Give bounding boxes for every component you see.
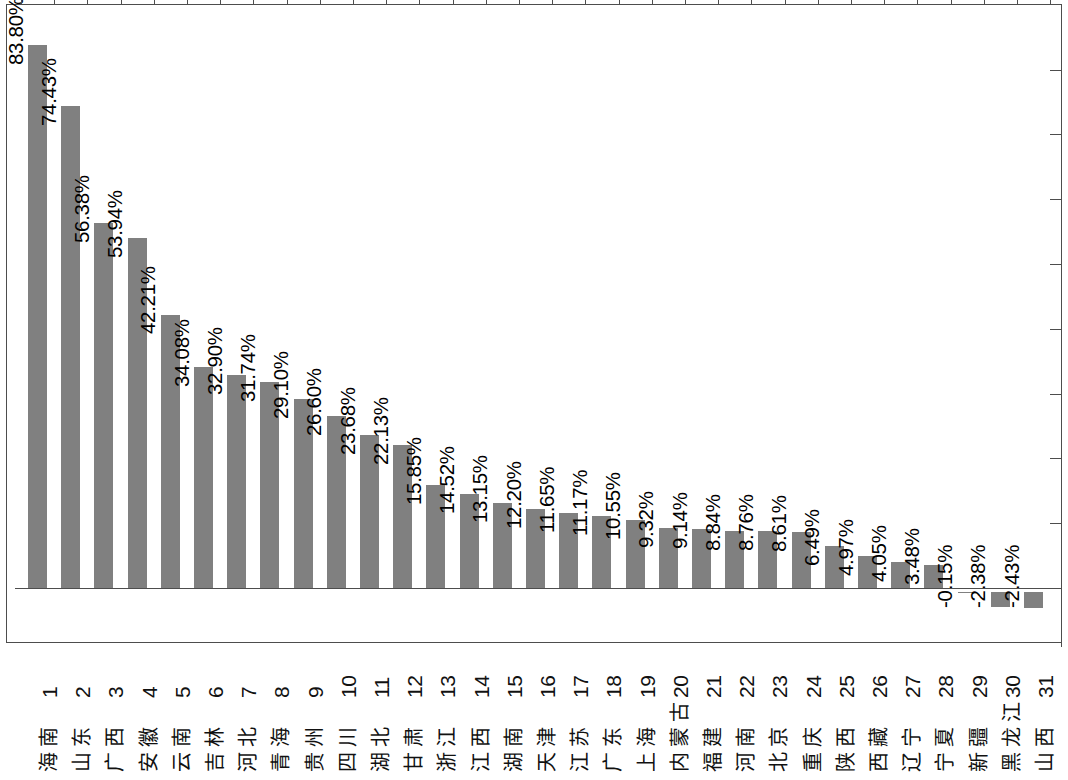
category-label-column: 13浙江 [412,652,445,776]
y-axis-tick [1050,264,1061,265]
category-label-column: 31山西 [1010,652,1043,776]
bar-value-label: 8.84% [701,494,725,551]
y-axis-tick [1050,523,1061,524]
y-axis-tick [1050,134,1061,135]
category-label-column: 5云南 [147,652,180,776]
bar-value-label: 32.90% [203,327,227,395]
bar-value-label: 4.97% [834,519,858,576]
x-axis-tick [287,0,288,5]
bar-value-label: 53.94% [103,191,127,259]
category-label-column: 16天津 [512,652,545,776]
category-label-column: 21福建 [678,652,711,776]
y-axis-tick [1050,329,1061,330]
y-axis-tick [1050,70,1061,71]
bar-slot: 29.10% [287,9,320,588]
value-axis-line [1061,10,1062,647]
bar-value-label: -2.38% [966,545,990,608]
x-axis-tick [552,0,553,5]
bar[interactable] [94,223,113,588]
x-axis-tick [1050,0,1051,5]
category-label-column: 2山东 [47,652,80,776]
bar-value-label: 15.85% [402,438,426,506]
x-axis-tick [619,0,620,5]
x-axis-tick [718,0,719,5]
category-label-column: 15湖南 [479,652,512,776]
x-axis-tick [652,0,653,5]
bar-slot: 4.05% [884,9,917,588]
x-axis-tick [220,0,221,5]
x-axis-tick [585,0,586,5]
bar-slot: -2.38% [984,9,1017,588]
category-label-column: 11湖北 [346,652,379,776]
bar-value-label: 12.20% [502,461,526,529]
category-label-column: 27辽宁 [877,652,910,776]
bar-value-label: 31.74% [236,335,260,403]
category-label-column: 8青海 [246,652,279,776]
x-axis-tick [851,0,852,5]
bar-slot: 4.97% [851,9,884,588]
bar[interactable] [1024,592,1043,608]
category-label-column: 18广东 [578,652,611,776]
category-label-column: 22河南 [711,652,744,776]
category-label-column: 7河北 [213,652,246,776]
x-axis-tick [54,0,55,5]
category-label-column: 24重庆 [778,652,811,776]
category-label-column: 17江苏 [545,652,578,776]
y-axis-tick [1050,199,1061,200]
x-axis-tick [187,0,188,5]
bar-value-label: 9.14% [668,492,692,549]
bar[interactable] [227,375,246,588]
x-axis-tick [320,0,321,5]
category-label-column: 23北京 [744,652,777,776]
x-axis-tick [884,0,885,5]
zero-axis-line [15,588,1061,589]
category-label-column: 9贵州 [280,652,313,776]
bar-slot: -2.43% [1017,9,1050,588]
bar[interactable] [194,367,213,588]
bar-value-label: 4.05% [867,525,891,582]
bar-value-label: 22.13% [369,397,393,465]
x-axis-tick [1017,0,1018,5]
bar-slot: 34.08% [187,9,220,588]
bar-slot: 56.38% [87,9,120,588]
bar-value-label: -0.15% [933,545,957,608]
category-label-column: 19上海 [612,652,645,776]
bar[interactable] [28,45,47,588]
x-axis-tick [951,0,952,5]
x-axis-tick [685,0,686,5]
category-label-column: 29新疆 [944,652,977,776]
category-label-column: 10四川 [313,652,346,776]
category-label-column: 28宁夏 [910,652,943,776]
bar-value-label: 3.48% [900,529,924,586]
category-label-column: 25陕西 [811,652,844,776]
bar-value-label: 23.68% [336,387,360,455]
x-axis-tick [453,0,454,5]
bar-slot: -0.15% [951,9,984,588]
category-label-column: 26西藏 [844,652,877,776]
bar-value-label: -2.43% [1000,545,1024,608]
bar-value-label: 11.17% [568,469,592,535]
x-axis-tick [519,0,520,5]
category-label-column: 3广西 [80,652,113,776]
bar-value-label: 42.21% [136,267,160,335]
x-axis-tick [154,0,155,5]
x-axis-tick [785,0,786,5]
category-label-column: 14江西 [446,652,479,776]
bar-slot: 74.43% [54,9,87,588]
bar-value-label: 26.60% [302,368,326,436]
bar-value-label: 6.49% [800,509,824,566]
bar-slot: 6.49% [818,9,851,588]
bar-slot: 8.61% [785,9,818,588]
bar-value-label: 83.80% [4,0,28,65]
bar-chart-figure: 83.80%74.43%56.38%53.94%42.21%34.08%32.9… [0,0,1068,780]
category-label-column: 1海南 [14,652,47,776]
bar-value-label: 11.65% [535,466,559,532]
category-label-column: 30黑龙江 [977,652,1010,776]
bar-value-label: 13.15% [468,455,492,523]
category-label-column: 4安徽 [114,652,147,776]
bar-slot: 26.60% [320,9,353,588]
bar-value-label: 8.76% [734,495,758,552]
category-label-column: 6吉林 [180,652,213,776]
bar-slot: 42.21% [154,9,187,588]
x-axis-tick [984,0,985,5]
